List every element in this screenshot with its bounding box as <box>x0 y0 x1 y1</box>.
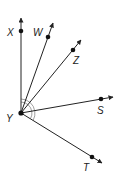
points <box>18 29 103 160</box>
point-y <box>18 110 23 115</box>
point-z <box>71 48 76 53</box>
label-s: S <box>97 105 104 116</box>
label-z: Z <box>72 55 80 66</box>
point-t <box>90 155 95 160</box>
label-w: W <box>33 27 44 38</box>
rays <box>21 18 113 163</box>
geometry-diagram: X W Z S T Y <box>0 0 122 183</box>
label-x: X <box>6 27 14 38</box>
label-t: T <box>83 162 90 173</box>
ray-yt <box>21 113 102 163</box>
label-y: Y <box>6 113 14 124</box>
point-w <box>46 35 51 40</box>
point-x <box>19 29 24 34</box>
point-s <box>99 97 104 102</box>
